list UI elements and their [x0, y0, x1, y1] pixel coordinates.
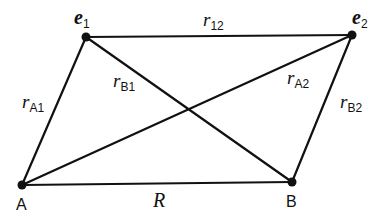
- label-e2-sub: 2: [361, 17, 368, 31]
- label-B: B: [286, 194, 297, 210]
- label-rB2-sub: B2: [347, 101, 362, 115]
- label-rB1-sub: B1: [120, 80, 135, 94]
- edge-r12: [86, 35, 352, 37]
- label-R: R: [153, 190, 165, 210]
- label-rA1: rA1: [22, 92, 44, 114]
- label-rA2-sub: A2: [294, 77, 309, 91]
- label-rB2: rB2: [340, 92, 362, 114]
- node-e1-dot: [82, 33, 91, 42]
- label-e2-main: e: [352, 6, 361, 28]
- distance-diagram: e1 e2 A B r12 rA1 rB1 rA2 rB2 R: [0, 0, 385, 220]
- label-A: A: [16, 197, 27, 213]
- label-e1-sub: 1: [83, 17, 90, 31]
- label-e1-main: e: [74, 6, 83, 28]
- node-B-dot: [288, 178, 297, 187]
- node-A-dot: [18, 181, 27, 190]
- label-rA1-sub: A1: [29, 101, 44, 115]
- node-e2-dot: [348, 31, 357, 40]
- label-r12: r12: [203, 10, 224, 32]
- label-rB1: rB1: [113, 71, 135, 93]
- label-rA2: rA2: [287, 68, 309, 90]
- label-r12-sub: 12: [210, 19, 223, 33]
- diagram-canvas: [0, 0, 385, 220]
- edge-rA2: [22, 35, 352, 185]
- label-e1: e1: [74, 7, 90, 30]
- edge-R: [22, 182, 292, 185]
- label-e2: e2: [352, 7, 368, 30]
